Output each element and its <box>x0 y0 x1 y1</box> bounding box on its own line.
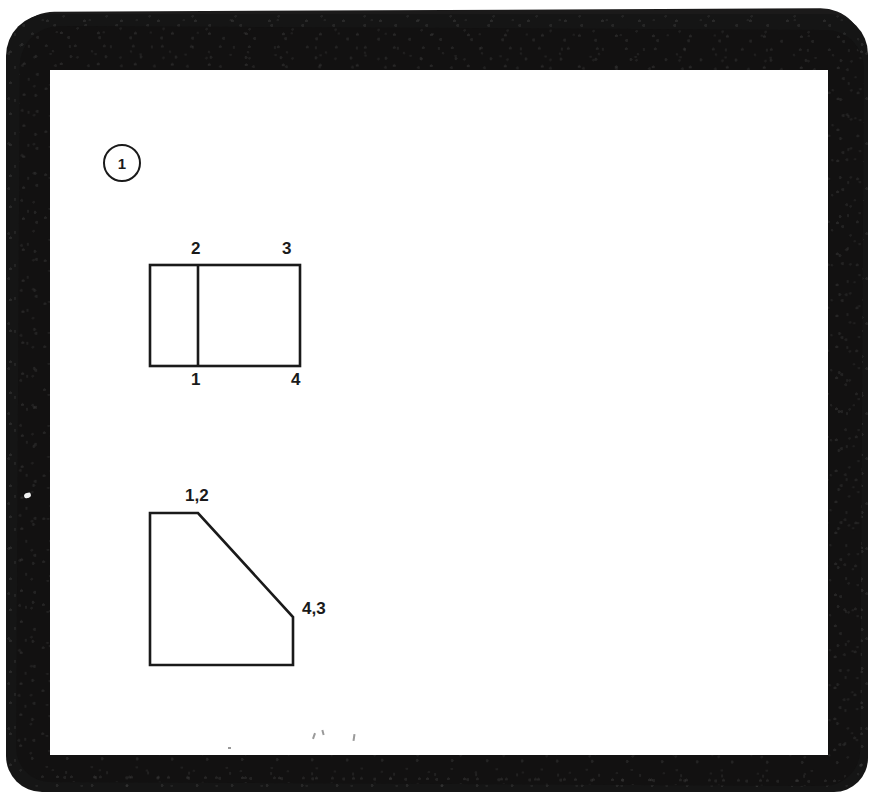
front-view-label-2: 2 <box>191 240 200 257</box>
side-view-outline <box>150 513 293 665</box>
drawing-area: 1 2 3 1 4 1,2 4,3 <box>0 0 874 799</box>
front-view-figure <box>0 0 874 799</box>
side-view-label-1-2: 1,2 <box>185 487 209 504</box>
side-view-label-4-3: 4,3 <box>302 600 326 617</box>
front-view-label-3: 3 <box>282 240 291 257</box>
scanned-page: 1 2 3 1 4 1,2 4,3 <box>0 0 874 799</box>
front-view-outline <box>150 265 300 366</box>
front-view-label-4: 4 <box>291 371 300 388</box>
front-view-label-1: 1 <box>191 371 200 388</box>
